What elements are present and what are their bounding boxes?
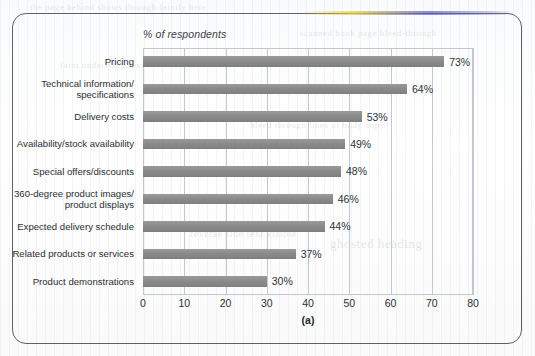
x-tick-30: 30 [261, 297, 273, 309]
gridline-80 [473, 48, 474, 295]
category-label: Technical information/ specifications [12, 78, 134, 100]
category-label: Availability/stock availability [12, 138, 134, 149]
x-tick-60: 60 [385, 297, 397, 309]
x-tick-40: 40 [302, 297, 314, 309]
bar-value-label: 64% [412, 83, 433, 95]
category-label: Pricing [12, 56, 134, 67]
bar-row: 73% [143, 48, 473, 75]
x-tick-20: 20 [220, 297, 232, 309]
category-label: 360-degree product images/ product displ… [12, 188, 134, 210]
category-labels: PricingTechnical information/ specificat… [18, 48, 138, 295]
bar-rows: 73%64%53%49%48%46%44%37%30% [143, 48, 473, 295]
bar [143, 276, 267, 287]
category-label: Product demonstrations [12, 276, 134, 287]
chart-axis-title: % of respondents [143, 28, 226, 40]
bar-row: 49% [143, 130, 473, 157]
bar-row: 46% [143, 185, 473, 212]
bar-value-label: 30% [272, 275, 293, 287]
bar [143, 84, 407, 95]
bar-row: 44% [143, 213, 473, 240]
bar [143, 166, 341, 177]
bar-value-label: 46% [338, 193, 359, 205]
bar-value-label: 49% [350, 138, 371, 150]
bar-row: 48% [143, 158, 473, 185]
x-tick-0: 0 [140, 297, 146, 309]
category-label: Special offers/discounts [12, 166, 134, 177]
bar-value-label: 48% [346, 165, 367, 177]
bar-row: 64% [143, 75, 473, 102]
bar-value-label: 73% [449, 56, 470, 68]
ghost-text: the page behind shows through faintly he… [30, 2, 206, 12]
x-tick-70: 70 [426, 297, 438, 309]
bar [143, 111, 362, 122]
category-label: Related products or services [12, 248, 134, 259]
bar [143, 194, 333, 205]
x-tick-50: 50 [343, 297, 355, 309]
category-label: Expected delivery schedule [12, 221, 134, 232]
category-label: Delivery costs [12, 111, 134, 122]
chart-plot-area: 73%64%53%49%48%46%44%37%30% [143, 48, 473, 295]
x-tick-80: 80 [467, 297, 479, 309]
x-axis-tick-labels: 01020304050607080 [143, 297, 473, 313]
bar [143, 56, 444, 67]
bar-value-label: 44% [330, 220, 351, 232]
bar [143, 139, 345, 150]
bar-value-label: 53% [367, 111, 388, 123]
bar-value-label: 37% [301, 248, 322, 260]
x-tick-10: 10 [178, 297, 190, 309]
bar [143, 249, 296, 260]
figure-caption: (a) [143, 314, 473, 326]
bar-row: 30% [143, 268, 473, 295]
bar-row: 53% [143, 103, 473, 130]
bar-row: 37% [143, 240, 473, 267]
bar [143, 221, 325, 232]
